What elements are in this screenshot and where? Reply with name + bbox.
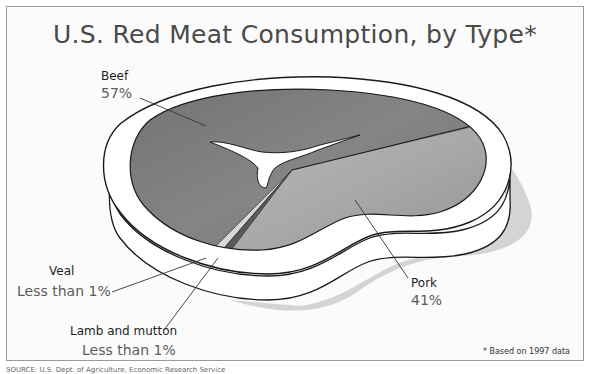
lamb-value: Less than 1% <box>82 342 176 358</box>
veal-value: Less than 1% <box>17 283 111 299</box>
beef-label: Beef 57% <box>101 69 132 101</box>
veal-label: Veal <box>49 264 74 278</box>
source-line: SOURCE: U.S. Dept. of Agriculture, Econo… <box>6 366 225 374</box>
beef-name: Beef <box>101 69 132 83</box>
lamb-name: Lamb and mutton <box>70 324 177 338</box>
veal-name: Veal <box>49 264 74 278</box>
beef-value: 57% <box>101 85 132 101</box>
pork-value: 41% <box>411 292 442 308</box>
pork-name: Pork <box>411 276 442 290</box>
lamb-label: Lamb and mutton <box>70 324 177 338</box>
pork-label: Pork 41% <box>411 276 442 308</box>
footnote: * Based on 1997 data <box>483 347 570 356</box>
veal-value-wrap: Less than 1% <box>17 283 111 299</box>
lamb-value-wrap: Less than 1% <box>82 342 176 358</box>
